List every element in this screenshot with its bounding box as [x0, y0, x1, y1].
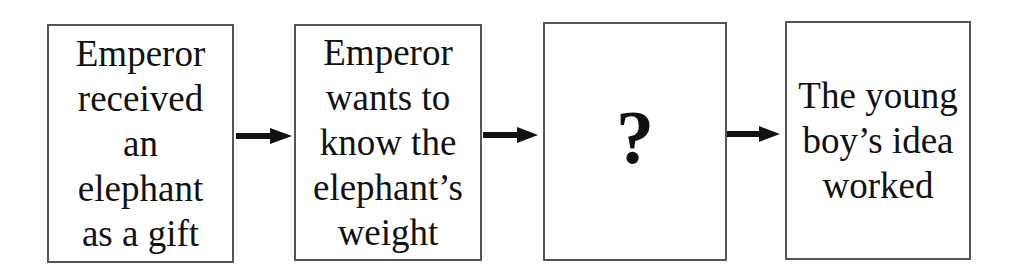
arrow-right-icon — [236, 126, 294, 146]
step-box-3: ? — [543, 22, 727, 261]
step-1-text: Emperor received an elephant as a gift — [76, 31, 205, 256]
question-mark: ? — [616, 94, 654, 181]
step-box-1: Emperor received an elephant as a gift — [47, 24, 234, 263]
step-box-2: Emperor wants to know the elephant’s wei… — [294, 24, 482, 261]
step-4-text: The young boy’s idea worked — [798, 73, 957, 208]
step-2-text: Emperor wants to know the elephant’s wei… — [313, 30, 463, 255]
step-box-4: The young boy’s idea worked — [785, 21, 971, 260]
arrow-right-icon — [483, 125, 540, 145]
arrow-right-icon — [727, 124, 782, 144]
